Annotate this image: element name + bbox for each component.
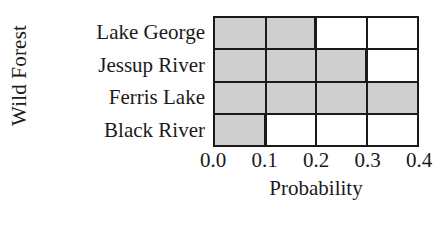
x-axis-title: Probability [213,176,419,201]
bar-row [215,115,417,145]
x-axis-tick-label: 0.3 [354,150,380,171]
bar-row [215,83,417,115]
bar-chart: Wild Forest Lake George Jessup River Fer… [0,0,445,225]
bar-row [215,18,417,50]
bar-row [215,50,417,82]
x-axis-tick-label: 0.2 [303,150,329,171]
x-axis-tick-label: 0.4 [406,150,432,171]
y-axis-tick-label: Black River [42,114,210,147]
bar-jessup-river [215,50,367,80]
bar-rows [215,18,417,145]
y-axis-title-text: Wild Forest [8,24,33,125]
bar-ferris-lake [215,83,417,113]
bar-lake-george [215,18,316,48]
bar-black-river [215,115,266,145]
y-axis-tick-label: Ferris Lake [42,82,210,115]
x-axis-tick-labels: 0.00.10.20.30.4 [213,150,419,174]
x-axis-tick-label: 0.0 [200,150,226,171]
plot-area [213,16,419,147]
y-axis-title: Wild Forest [0,0,40,150]
y-axis-tick-labels: Lake George Jessup River Ferris Lake Bla… [42,16,210,147]
y-axis-tick-label: Lake George [42,16,210,49]
y-axis-tick-label: Jessup River [42,49,210,82]
x-axis-tick-label: 0.1 [251,150,277,171]
